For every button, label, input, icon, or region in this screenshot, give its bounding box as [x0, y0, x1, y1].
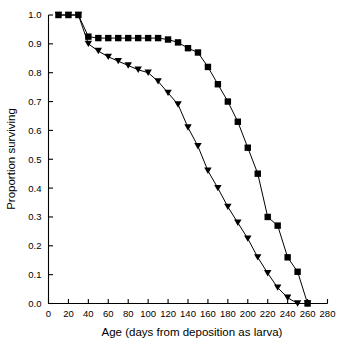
x-tick-label: 20 — [63, 308, 74, 319]
data-point-marker — [115, 35, 121, 41]
data-point-marker — [165, 36, 171, 42]
y-tick-label: 0.5 — [28, 154, 41, 165]
data-point-marker — [125, 35, 131, 41]
x-tick-label: 80 — [123, 308, 134, 319]
y-tick-label: 0.2 — [28, 240, 41, 251]
survival-curve-figure: 020406080100120140160180200220240260280 … — [0, 0, 343, 343]
series-line — [58, 15, 307, 304]
x-tick-label: 260 — [300, 308, 316, 319]
data-point-marker — [135, 35, 141, 41]
data-point-marker — [174, 101, 181, 107]
data-point-marker — [115, 58, 122, 64]
y-axis-title: Proportion surviving — [5, 108, 17, 210]
data-point-marker — [224, 204, 231, 210]
data-point-marker — [194, 143, 201, 149]
y-tick-label: 0.1 — [28, 269, 41, 280]
x-tick-label: 200 — [240, 308, 256, 319]
data-point-marker — [234, 220, 241, 226]
data-point-marker — [95, 48, 102, 54]
data-series-group — [55, 12, 312, 307]
data-point-marker — [225, 98, 231, 104]
series-square-series — [55, 12, 311, 307]
x-tick-label: 60 — [103, 308, 114, 319]
y-tick-label: 0.9 — [28, 38, 41, 49]
x-axis-ticks — [49, 299, 328, 304]
data-point-marker — [294, 269, 300, 275]
data-point-marker — [134, 67, 141, 73]
x-tick-label: 160 — [200, 308, 216, 319]
data-point-marker — [284, 254, 290, 260]
y-tick-label: 0.4 — [28, 183, 41, 194]
data-point-marker — [254, 254, 261, 260]
data-point-marker — [105, 35, 111, 41]
y-tick-label: 0.7 — [28, 96, 41, 107]
data-point-marker — [214, 185, 221, 191]
data-point-marker — [215, 81, 221, 87]
y-axis-tick-labels: 0.00.10.20.30.40.50.60.70.80.91.0 — [28, 9, 41, 309]
y-tick-label: 0.6 — [28, 125, 41, 136]
chart-canvas: 020406080100120140160180200220240260280 … — [0, 0, 343, 343]
y-axis-ticks — [49, 15, 54, 304]
data-point-marker — [284, 295, 291, 301]
x-tick-label: 280 — [320, 308, 336, 319]
data-point-marker — [175, 39, 181, 45]
x-tick-label: 120 — [160, 308, 176, 319]
data-point-marker — [95, 35, 101, 41]
x-tick-label: 180 — [220, 308, 236, 319]
y-tick-label: 0.0 — [28, 298, 41, 309]
data-point-marker — [185, 45, 191, 51]
x-tick-label: 0 — [46, 308, 51, 319]
data-point-marker — [205, 64, 211, 70]
x-tick-label: 220 — [260, 308, 276, 319]
x-tick-label: 40 — [83, 308, 94, 319]
series-triangle-series — [55, 12, 312, 307]
data-point-marker — [265, 214, 271, 220]
x-axis-tick-labels: 020406080100120140160180200220240260280 — [46, 308, 336, 319]
data-point-marker — [244, 235, 251, 241]
data-point-marker — [155, 35, 161, 41]
data-point-marker — [235, 119, 241, 125]
y-tick-label: 1.0 — [28, 9, 41, 20]
y-tick-label: 0.8 — [28, 67, 41, 78]
data-point-marker — [105, 54, 112, 60]
data-point-marker — [195, 49, 201, 55]
series-line — [58, 15, 307, 304]
data-point-marker — [274, 222, 280, 228]
x-tick-label: 140 — [180, 308, 196, 319]
y-tick-label: 0.3 — [28, 211, 41, 222]
x-tick-label: 240 — [280, 308, 296, 319]
data-point-marker — [204, 168, 211, 174]
data-point-marker — [184, 124, 191, 130]
data-point-marker — [245, 145, 251, 151]
axes-group: 020406080100120140160180200220240260280 … — [28, 9, 335, 318]
x-tick-label: 100 — [140, 308, 156, 319]
data-point-marker — [125, 62, 132, 68]
data-point-marker — [255, 170, 261, 176]
data-point-marker — [145, 35, 151, 41]
x-axis-title: Age (days from deposition as larva) — [102, 326, 283, 338]
data-point-marker — [264, 270, 271, 276]
